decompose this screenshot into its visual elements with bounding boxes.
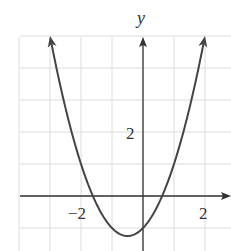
y-tick-label-2: 2: [126, 124, 135, 143]
curve-arrowheads: [48, 36, 207, 48]
y-axis-label: y: [135, 8, 145, 28]
parabola-chart: y −2 2 2: [0, 0, 231, 251]
x-tick-label-neg2: −2: [68, 204, 86, 223]
x-tick-label-2: 2: [199, 204, 208, 223]
